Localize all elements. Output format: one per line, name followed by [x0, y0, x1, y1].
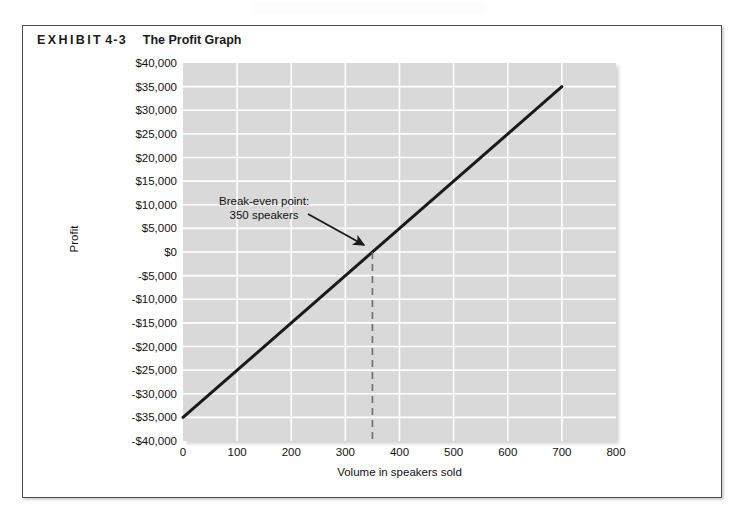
y-axis-tick-label: $20,000	[91, 152, 177, 164]
plot-area	[183, 63, 616, 441]
x-axis-tick-label: 700	[532, 446, 592, 458]
y-axis-tick-label: $30,000	[91, 104, 177, 116]
x-axis-tick-label: 0	[153, 446, 213, 458]
y-axis-tick-label: $25,000	[91, 128, 177, 140]
break-even-arrow-icon	[306, 211, 376, 256]
x-axis-tick-label: 200	[261, 446, 321, 458]
series-layer	[183, 63, 616, 441]
x-axis-tick-label: 300	[315, 446, 375, 458]
y-axis-tick-labels: $40,000$35,000$30,000$25,000$20,000$15,0…	[89, 63, 177, 441]
y-axis-tick-label: $40,000	[91, 57, 177, 69]
x-axis-tick-label: 600	[478, 446, 538, 458]
break-even-annotation-line2: 350 speakers	[219, 208, 309, 222]
y-axis-tick-label: $35,000	[91, 81, 177, 93]
y-axis-tick-label: -$15,000	[91, 317, 177, 329]
y-axis-tick-label: -$5,000	[91, 270, 177, 282]
x-axis-tick-label: 100	[207, 446, 267, 458]
x-axis-tick-label: 500	[424, 446, 484, 458]
y-axis-tick-label: -$25,000	[91, 364, 177, 376]
y-axis-tick-label: $5,000	[91, 222, 177, 234]
break-even-annotation: Break-even point: 350 speakers	[219, 194, 309, 222]
scan-artifact	[255, 2, 485, 14]
y-axis-tick-label: $0	[91, 246, 177, 258]
y-axis-tick-label: $10,000	[91, 199, 177, 211]
x-axis-tick-labels: 0100200300400500600700800	[183, 446, 616, 464]
y-axis-tick-label: $15,000	[91, 175, 177, 187]
y-axis-tick-label: -$35,000	[91, 411, 177, 423]
break-even-annotation-line1: Break-even point:	[219, 194, 309, 208]
y-axis-tick-label: -$30,000	[91, 388, 177, 400]
x-axis-tick-label: 800	[586, 446, 646, 458]
profit-graph-figure: Profit $40,000$35,000$30,000$25,000$20,0…	[23, 26, 723, 499]
y-axis-title: Profit	[68, 226, 80, 253]
x-axis-tick-label: 400	[370, 446, 430, 458]
y-axis-tick-label: -$20,000	[91, 341, 177, 353]
y-axis-tick-label: -$10,000	[91, 293, 177, 305]
x-axis-title: Volume in speakers sold	[183, 466, 616, 478]
exhibit-panel: EXHIBIT4-3The Profit Graph Profit $40,00…	[22, 25, 722, 498]
